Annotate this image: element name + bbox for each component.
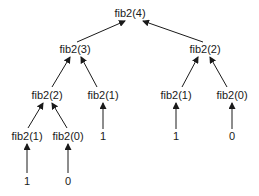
leaf-value: 1 xyxy=(24,176,30,187)
leaf-value: 0 xyxy=(65,176,71,187)
arrow-edge xyxy=(28,103,43,128)
recursion-tree-diagram: fib2(4) fib2(3) fib2(2) fib2(2) fib2(1) … xyxy=(0,0,259,196)
arrow-edge xyxy=(81,57,97,87)
node-fib2-1-b: fib2(1) xyxy=(160,90,191,101)
leaf-value: 1 xyxy=(173,131,179,142)
arrow-edge xyxy=(52,57,70,87)
node-fib2-0-b: fib2(0) xyxy=(52,131,83,142)
node-fib2-0-a: fib2(0) xyxy=(216,90,247,101)
node-fib2-3: fib2(3) xyxy=(59,44,90,55)
leaf-value: 1 xyxy=(100,131,106,142)
arrow-edge xyxy=(182,57,198,87)
arrow-edge xyxy=(77,21,125,42)
arrow-edge xyxy=(143,21,203,42)
arrow-edge xyxy=(210,57,227,87)
node-fib2-2-right: fib2(2) xyxy=(189,44,220,55)
node-fib2-4-root: fib2(4) xyxy=(114,8,145,19)
node-fib2-1-a: fib2(1) xyxy=(87,90,118,101)
node-fib2-1-c: fib2(1) xyxy=(11,131,42,142)
arrow-edge xyxy=(52,103,67,128)
node-fib2-2-left: fib2(2) xyxy=(31,90,62,101)
leaf-value: 0 xyxy=(229,131,235,142)
